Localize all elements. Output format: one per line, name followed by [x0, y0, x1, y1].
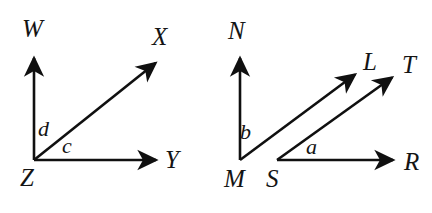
left-angle-figure: Z W X Y d c	[20, 15, 182, 191]
ray-endpoint-label-n: N	[227, 17, 246, 44]
vertex-label-s: S	[266, 165, 279, 192]
ray-endpoint-label-t: T	[402, 51, 418, 78]
vertex-label-z: Z	[20, 164, 35, 191]
geometry-figure: Z W X Y d c M S N L T R b a	[0, 0, 432, 213]
angle-label-c: c	[62, 133, 72, 158]
angle-label-a: a	[306, 134, 317, 159]
right-angle-figure: M S N L T R b a	[223, 17, 419, 192]
vertex-label-m: M	[223, 165, 246, 192]
ray-endpoint-label-y: Y	[165, 146, 182, 173]
ray-endpoint-label-l: L	[362, 48, 377, 75]
angle-label-d: d	[38, 116, 50, 141]
ray-endpoint-label-w: W	[22, 15, 45, 42]
ray-endpoint-label-x: X	[151, 23, 169, 50]
diagram-canvas: Z W X Y d c M S N L T R b a	[0, 0, 432, 213]
ray-zx	[34, 63, 156, 160]
angle-label-b: b	[240, 119, 251, 144]
ray-endpoint-label-r: R	[403, 148, 419, 175]
